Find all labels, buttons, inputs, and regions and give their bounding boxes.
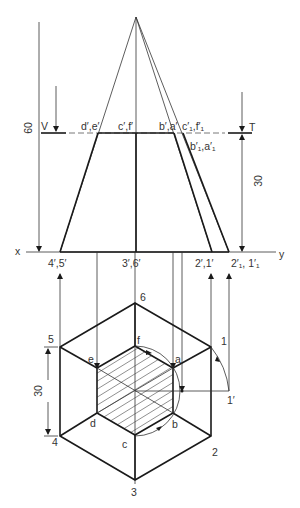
plane-label-t: T (249, 121, 256, 133)
section-label-c: c (122, 438, 127, 450)
corner-label-6: 6 (140, 291, 146, 303)
corner-label-1: 1 (221, 335, 227, 347)
section-hatching (60, 292, 190, 492)
xy-label-y: y (279, 248, 285, 260)
label-21: 2′,1′ (195, 257, 214, 269)
top-view: 30 1 2 3 4 5 6 a b c d e f 1′ (32, 291, 235, 498)
height-dimension-label: 60 (22, 122, 34, 134)
corner-label-3: 3 (131, 486, 137, 498)
cut-dimension-label: 30 (252, 175, 264, 187)
rotated-point-label: 1′ (227, 394, 235, 406)
label-c1f1: c′₁,f′₁ (182, 120, 205, 132)
base-rotation-arc (211, 347, 229, 391)
section-label-a: a (175, 353, 181, 365)
section-label-b: b (172, 418, 178, 430)
edge-2b (173, 413, 211, 436)
projection-drawing: 60 V T 30 x y d′,e′ c′,f′ b′,a′ (0, 0, 300, 508)
label-36: 3′,6′ (122, 257, 141, 269)
front-view: 60 V T 30 x y d′,e′ c′,f′ b′,a′ (15, 17, 285, 269)
label-de: d′,e′ (81, 120, 100, 132)
label-cf: c′,f′ (118, 120, 133, 132)
label-45: 4′,5′ (48, 257, 67, 269)
corner-label-5: 5 (48, 333, 54, 345)
section-label-e: e (88, 353, 94, 365)
side-dimension-label: 30 (32, 385, 44, 397)
label-b1a1: b′₁,a′₁ (190, 140, 216, 152)
label-ba: b′,a′ (159, 120, 178, 132)
xy-label-x: x (15, 245, 21, 257)
section-label-f: f (137, 334, 140, 346)
frustum-edge-left (60, 133, 98, 252)
corner-label-4: 4 (52, 436, 58, 448)
label-2111: 2′₁, 1′₁ (231, 257, 260, 269)
corner-label-2: 2 (212, 446, 218, 458)
section-label-d: d (90, 417, 96, 429)
rotation-point (181, 390, 184, 393)
plane-label-v: V (41, 120, 48, 132)
